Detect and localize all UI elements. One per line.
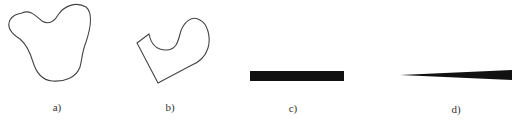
panel-c-label: c) [289, 103, 298, 114]
panel-d-shape [400, 70, 512, 80]
panel-b-shape [137, 18, 209, 83]
panel-c-shape [250, 71, 344, 81]
panel-a-label: a) [53, 102, 62, 113]
panel-a-shape [9, 4, 91, 81]
shapes-figure [0, 0, 519, 122]
panel-b-label: b) [165, 102, 174, 113]
panel-d-label: d) [451, 104, 460, 115]
